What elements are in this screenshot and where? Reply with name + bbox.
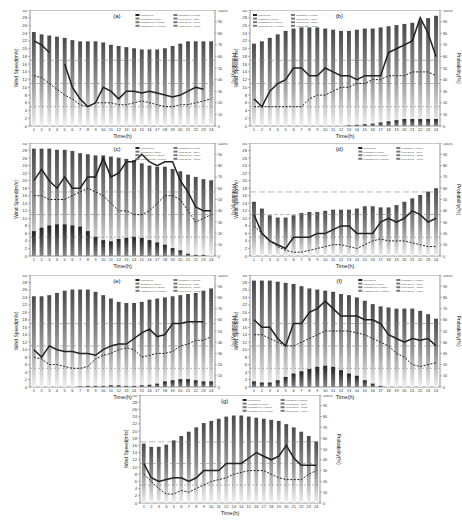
svg-text:Wind speed = 11m/s: Wind speed = 11m/s — [401, 286, 423, 289]
svg-text:19: 19 — [394, 127, 399, 132]
svg-text:20: 20 — [402, 388, 407, 393]
svg-text:12: 12 — [116, 127, 121, 132]
svg-text:100%: 100% — [218, 10, 228, 13]
svg-text:30: 30 — [218, 90, 222, 94]
svg-text:18: 18 — [163, 388, 168, 393]
svg-text:1: 1 — [253, 388, 256, 393]
svg-text:10: 10 — [242, 347, 247, 352]
svg-text:Wind speed = 11m/s: Wind speed = 11m/s — [296, 21, 318, 24]
svg-text:0: 0 — [245, 124, 248, 129]
svg-text:12: 12 — [116, 257, 121, 262]
svg-text:Probability(%): Probability(%) — [456, 184, 462, 215]
svg-text:8: 8 — [245, 93, 248, 98]
svg-text:Probability(v<5m/s): Probability(v<5m/s) — [363, 283, 384, 286]
svg-text:Wind speed = 5m/s: Wind speed = 5m/s — [401, 151, 422, 154]
svg-text:3: 3 — [158, 504, 161, 509]
svg-text:11: 11 — [109, 388, 114, 393]
svg-text:Wind speed = 17m/s: Wind speed = 17m/s — [401, 158, 424, 161]
svg-text:80: 80 — [443, 32, 447, 36]
svg-text:18: 18 — [22, 317, 27, 322]
svg-text:16: 16 — [147, 127, 152, 132]
svg-text:7: 7 — [79, 127, 82, 132]
svg-text:Probability(11<v<17m/s): Probability(11<v<17m/s) — [363, 290, 389, 293]
svg-text:14: 14 — [242, 332, 247, 337]
svg-text:3: 3 — [48, 127, 51, 132]
svg-text:12: 12 — [339, 127, 344, 132]
svg-text:13: 13 — [232, 504, 237, 509]
svg-text:Probability(11<v<17m/s): Probability(11<v<17m/s) — [258, 25, 284, 28]
svg-text:8: 8 — [308, 388, 311, 393]
svg-text:Wind Speed(m/s): Wind Speed(m/s) — [13, 48, 19, 87]
svg-text:50: 50 — [218, 330, 222, 334]
svg-text:18: 18 — [22, 186, 27, 191]
svg-text:Wind Speed(m/s): Wind Speed(m/s) — [233, 311, 239, 350]
svg-text:80: 80 — [218, 32, 222, 36]
svg-text:18: 18 — [242, 186, 247, 191]
svg-text:11: 11 — [331, 257, 336, 262]
svg-text:5: 5 — [285, 127, 288, 132]
svg-text:10: 10 — [218, 243, 222, 247]
svg-text:40: 40 — [443, 209, 447, 213]
svg-text:50: 50 — [443, 67, 447, 71]
svg-text:12: 12 — [339, 388, 344, 393]
svg-text:4: 4 — [277, 257, 280, 262]
svg-text:28: 28 — [242, 280, 247, 285]
svg-text:2: 2 — [25, 246, 28, 251]
svg-text:6: 6 — [292, 127, 295, 132]
chart-panel-g: 0246810121416182022242628300102030405060… — [122, 395, 342, 524]
svg-text:24: 24 — [242, 295, 247, 300]
svg-text:19: 19 — [170, 257, 175, 262]
svg-text:Wind Speed(m/s): Wind Speed(m/s) — [233, 48, 239, 87]
svg-text:26: 26 — [242, 156, 247, 161]
svg-text:2: 2 — [40, 388, 43, 393]
svg-text:16: 16 — [242, 193, 247, 198]
svg-text:15: 15 — [363, 127, 368, 132]
svg-text:Probability(%): Probability(%) — [456, 52, 462, 83]
svg-text:3: 3 — [48, 257, 51, 262]
svg-text:1: 1 — [33, 127, 36, 132]
svg-text:16: 16 — [22, 62, 27, 67]
svg-text:10: 10 — [323, 388, 328, 393]
svg-text:7: 7 — [300, 257, 303, 262]
svg-text:18: 18 — [132, 436, 137, 441]
svg-text:50: 50 — [218, 198, 222, 202]
svg-text:4: 4 — [245, 370, 248, 375]
svg-text:20: 20 — [218, 232, 222, 236]
svg-text:Wind speed = 17m/s: Wind speed = 17m/s — [296, 25, 319, 28]
svg-text:13: 13 — [124, 257, 129, 262]
svg-text:Probability(5<v<11m/s): Probability(5<v<11m/s) — [140, 21, 165, 24]
svg-text:70: 70 — [218, 175, 222, 179]
svg-text:6: 6 — [292, 257, 295, 262]
svg-text:19: 19 — [170, 127, 175, 132]
svg-text:90: 90 — [218, 153, 222, 157]
svg-text:8: 8 — [25, 93, 28, 98]
svg-text:16: 16 — [242, 62, 247, 67]
svg-text:100%: 100% — [443, 10, 453, 13]
svg-text:24: 24 — [242, 31, 247, 36]
svg-text:13: 13 — [347, 257, 352, 262]
svg-text:13: 13 — [124, 127, 129, 132]
svg-text:18: 18 — [269, 504, 274, 509]
svg-text:Time(h): Time(h) — [336, 263, 355, 269]
svg-text:Probability(v>17m/s): Probability(v>17m/s) — [178, 14, 200, 17]
svg-text:80: 80 — [218, 296, 222, 300]
svg-text:21: 21 — [292, 504, 297, 509]
svg-text:Probability(v<5m/s): Probability(v<5m/s) — [140, 18, 161, 21]
svg-text:5: 5 — [285, 257, 288, 262]
svg-text:8: 8 — [87, 388, 90, 393]
svg-text:12: 12 — [22, 340, 27, 345]
svg-text:11: 11 — [109, 127, 114, 132]
svg-text:6: 6 — [135, 479, 138, 484]
svg-text:22: 22 — [418, 127, 423, 132]
svg-text:2: 2 — [261, 388, 264, 393]
svg-text:2: 2 — [261, 257, 264, 262]
svg-text:12: 12 — [132, 457, 137, 462]
svg-text:20: 20 — [402, 257, 407, 262]
svg-text:20: 20 — [178, 257, 183, 262]
svg-text:Probability(v>17m/s): Probability(v>17m/s) — [296, 14, 318, 17]
svg-text:12: 12 — [242, 77, 247, 82]
svg-text:22: 22 — [242, 302, 247, 307]
svg-text:0: 0 — [25, 385, 28, 390]
chart-panel-d: 0246810121416182022242628300102030405060… — [232, 143, 462, 278]
svg-text:Wind speed = 5m/s: Wind speed = 5m/s — [286, 403, 307, 406]
